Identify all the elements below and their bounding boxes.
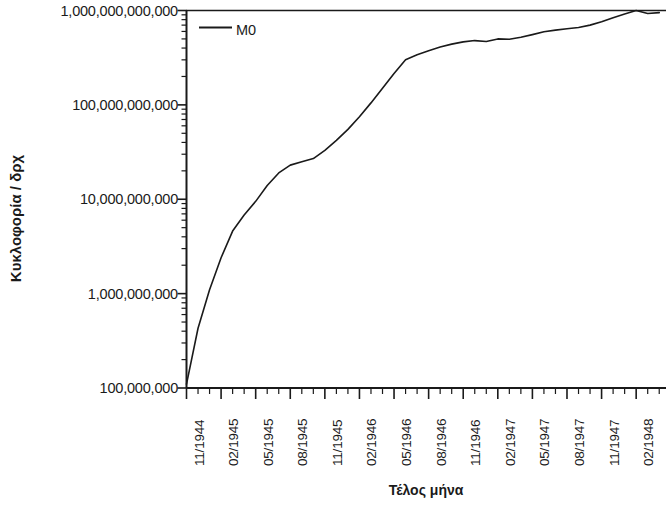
x-axis-tick-label: 11/1947: [607, 420, 622, 466]
x-axis-ticks: [187, 388, 660, 399]
x-axis-tick-label: 02/1945: [226, 419, 241, 466]
x-axis-tick-label: 02/1948: [641, 419, 656, 466]
x-axis-tick-label: 11/1944: [192, 420, 207, 466]
x-axis-tick-label: 02/1947: [503, 419, 518, 466]
y-axis-tick-label: 100,000,000,000: [72, 97, 178, 113]
series-line-m0: [187, 11, 660, 385]
x-axis-tick-label: 08/1947: [572, 419, 587, 466]
x-axis-tick-label: 05/1947: [537, 419, 552, 466]
y-axis-tick-label: 1,000,000,000: [88, 286, 178, 302]
y-axis-ticks: [178, 11, 187, 389]
chart-figure: Κυκλοφορία / δρχ 1,000,000,000,000100,00…: [0, 0, 666, 515]
y-axis-tick-label: 100,000,000: [100, 380, 178, 396]
legend-entry-label: M0: [236, 22, 256, 38]
x-axis-tick-label: 08/1946: [434, 419, 449, 466]
x-axis-title: Τέλος μήνα: [186, 482, 666, 498]
x-axis-tick-label: 11/1945: [330, 420, 345, 466]
y-axis-tick-label: 10,000,000,000: [80, 191, 178, 207]
y-axis-tick-labels: 1,000,000,000,000100,000,000,00010,000,0…: [0, 0, 178, 515]
x-axis-tick-label: 08/1945: [295, 419, 310, 466]
y-axis-tick-label: 1,000,000,000,000: [60, 3, 178, 19]
x-axis-tick-label: 05/1946: [399, 419, 414, 466]
x-axis-tick-label: 11/1946: [468, 420, 483, 466]
x-axis-tick-label: 02/1946: [364, 419, 379, 466]
x-axis-tick-label: 05/1945: [261, 419, 276, 466]
